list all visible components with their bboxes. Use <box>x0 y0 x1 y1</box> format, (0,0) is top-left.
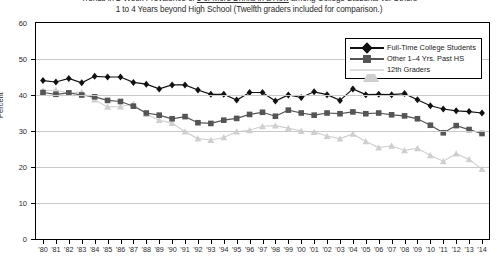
x-axis-tick-label: '82 <box>64 245 73 254</box>
chart-title-line-2: 1 to 4 Years beyond High School (Twelfth… <box>0 5 498 16</box>
x-axis-tick-label: '90 <box>167 245 176 254</box>
x-axis-tick <box>417 240 418 244</box>
data-point-marker <box>234 97 240 104</box>
data-point-marker <box>453 150 460 156</box>
x-axis-tick-label: '81 <box>51 245 60 254</box>
y-axis-tick-label: 20 <box>5 163 27 172</box>
data-point-marker <box>182 81 188 88</box>
data-point-marker <box>389 112 395 118</box>
data-point-marker <box>169 81 175 88</box>
data-point-marker <box>273 113 279 119</box>
data-point-marker <box>234 116 240 122</box>
data-point-marker <box>105 98 111 104</box>
legend-label: 12th Graders <box>384 65 430 74</box>
x-axis-tick <box>340 240 341 244</box>
legend-item-12th-graders: 12th Graders <box>350 64 476 75</box>
x-axis-tick <box>301 240 302 244</box>
data-point-marker <box>453 107 459 114</box>
x-axis-tick <box>482 240 483 244</box>
x-axis-tick-label: '05 <box>361 245 370 254</box>
chart-root: Trends in 2-Week Prevalence of 5 or More… <box>0 0 498 260</box>
data-point-marker <box>350 109 356 115</box>
x-axis-tick <box>366 240 367 244</box>
data-point-marker <box>131 79 137 86</box>
x-axis-tick-label: '03 <box>335 245 344 254</box>
chart-title-underlined-phrase: 5 or More Drinks in a Row <box>197 0 289 3</box>
x-axis-tick-label: '80 <box>38 245 47 254</box>
chart-title-part-1: Trends in 2-Week Prevalence of <box>81 0 197 3</box>
x-axis-tick-label: '96 <box>245 245 254 254</box>
x-axis-tick <box>469 240 470 244</box>
data-point-marker <box>311 112 317 118</box>
x-axis-tick-label: '89 <box>155 245 164 254</box>
legend-swatch-diamond <box>350 42 384 53</box>
data-point-marker <box>156 85 162 92</box>
data-point-marker <box>440 158 447 164</box>
x-axis-tick <box>314 240 315 244</box>
x-axis-tick <box>379 240 380 244</box>
data-point-marker <box>182 114 188 120</box>
x-axis-tick <box>443 240 444 244</box>
x-axis-tick-label: '92 <box>193 245 202 254</box>
x-axis-tick <box>392 240 393 244</box>
x-axis-tick-label: '98 <box>271 245 280 254</box>
data-point-marker <box>286 107 292 113</box>
data-point-marker <box>195 86 201 93</box>
x-axis-tick <box>353 240 354 244</box>
data-point-marker <box>479 110 485 117</box>
legend-label: Full-Time College Students <box>384 43 476 52</box>
x-axis-tick-label: '13 <box>464 245 473 254</box>
data-point-marker <box>247 112 253 118</box>
x-axis-tick-label: '12 <box>452 245 461 254</box>
chart-legend: Full-Time College Students Other 1–4 Yrs… <box>345 38 482 79</box>
grid-line <box>36 203 489 204</box>
y-axis-tick-label: 60 <box>5 19 27 28</box>
grid-line <box>36 131 489 132</box>
x-axis-tick-label: '04 <box>348 245 357 254</box>
legend-label: Other 1–4 Yrs. Past HS <box>384 54 464 63</box>
data-point-marker <box>363 111 369 117</box>
x-axis-tick-label: '02 <box>322 245 331 254</box>
x-axis-tick-label: '08 <box>400 245 409 254</box>
data-point-marker <box>440 106 446 113</box>
data-point-marker <box>414 145 421 151</box>
x-axis-tick <box>198 240 199 244</box>
data-point-marker <box>118 99 124 105</box>
data-point-marker <box>466 156 473 162</box>
x-axis-tick <box>159 240 160 244</box>
data-point-marker <box>208 121 214 127</box>
x-axis-tick <box>263 240 264 244</box>
x-axis-tick-label: '87 <box>129 245 138 254</box>
legend-swatch-triangle <box>350 64 384 75</box>
x-axis-tick <box>456 240 457 244</box>
x-axis-tick-label: '85 <box>103 245 112 254</box>
data-point-marker <box>453 123 459 129</box>
x-axis-tick <box>69 240 70 244</box>
y-axis-tick-label: 10 <box>5 199 27 208</box>
x-axis-tick-label: '88 <box>142 245 151 254</box>
data-point-marker <box>427 102 433 109</box>
data-point-marker <box>428 122 434 128</box>
data-point-marker <box>298 110 304 116</box>
data-point-marker <box>388 142 395 148</box>
x-axis-tick <box>185 240 186 244</box>
legend-swatch-square <box>350 53 384 64</box>
data-point-marker <box>376 110 382 116</box>
x-axis-tick-label: '97 <box>258 245 267 254</box>
x-axis-tick-label: '11 <box>439 245 448 254</box>
x-axis-tick <box>211 240 212 244</box>
data-point-marker <box>402 113 408 119</box>
x-axis-tick-label: '00 <box>297 245 306 254</box>
x-axis-tick-label: '86 <box>116 245 125 254</box>
data-point-marker <box>156 112 162 118</box>
x-axis-tick <box>275 240 276 244</box>
data-point-marker <box>131 103 137 109</box>
data-point-marker <box>105 74 111 81</box>
chart-title: Trends in 2-Week Prevalence of 5 or More… <box>0 0 498 15</box>
data-point-marker <box>415 96 421 103</box>
series-other-1-4-yrs-past-hs <box>40 90 485 137</box>
x-axis-tick-label: '09 <box>413 245 422 254</box>
data-point-marker <box>40 77 46 84</box>
grid-line <box>36 95 489 96</box>
chart-title-part-3: among College Students vs. Others <box>289 0 417 3</box>
